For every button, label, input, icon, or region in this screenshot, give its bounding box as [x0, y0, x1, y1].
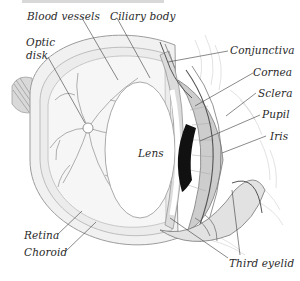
eye-anatomy-diagram: Blood vessels Ciliary body Optic disk Co…	[0, 0, 300, 281]
label-sclera: Sclera	[258, 87, 293, 99]
label-third-eyelid: Third eyelid	[229, 257, 294, 269]
label-optic-disk-line2: disk	[26, 49, 48, 61]
label-cornea: Cornea	[253, 66, 292, 78]
label-optic-disk-line1: Optic	[26, 36, 55, 48]
optic-disk	[83, 123, 93, 133]
label-iris: Iris	[270, 130, 288, 142]
label-ciliary-body: Ciliary body	[110, 10, 176, 22]
label-pupil: Pupil	[262, 108, 290, 120]
label-retina: Retina	[24, 229, 59, 241]
label-lens: Lens	[138, 147, 164, 159]
label-choroid: Choroid	[24, 246, 67, 258]
label-blood-vessels: Blood vessels	[27, 10, 100, 22]
label-conjunctiva: Conjunctiva	[230, 44, 295, 56]
